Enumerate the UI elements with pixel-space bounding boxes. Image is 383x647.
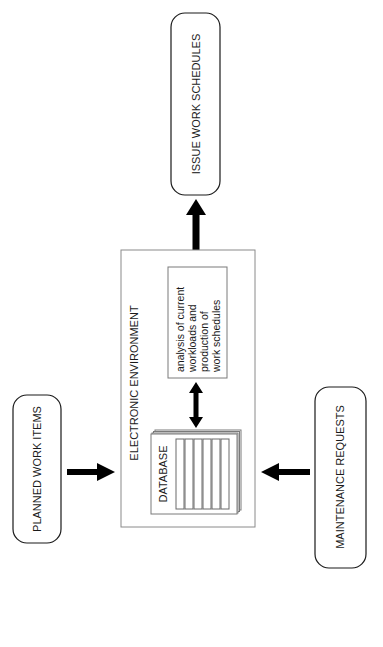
planned-input-arrow-icon [67,463,115,481]
electronic-environment-container: ELECTRONIC ENVIRONMENT analysis of curre… [121,250,255,527]
planned-work-items-node: PLANNED WORK ITEMS [13,395,61,543]
database-columns [176,439,229,509]
output-arrow-icon [186,199,206,250]
database-node: DATABASE [151,430,241,514]
issue-work-schedules-label: ISSUE WORK SCHEDULES [190,34,202,175]
analysis-line-3: production of [198,311,210,372]
analysis-process-node: analysis of current workloads and produc… [168,267,227,378]
workflow-diagram: ISSUE WORK SCHEDULES ELECTRONIC ENVIRONM… [0,0,383,647]
issue-work-schedules-node: ISSUE WORK SCHEDULES [171,13,220,195]
analysis-line-2: workloads and [186,304,198,373]
maintenance-requests-label: MAINTENANCE REQUESTS [334,405,346,549]
maintenance-requests-node: MAINTENANCE REQUESTS [315,387,366,568]
maintenance-input-arrow-icon [261,463,310,481]
analysis-line-1: analysis of current [174,287,186,372]
database-label: DATABASE [157,445,169,502]
analysis-line-4: work schedules [210,300,222,373]
planned-work-items-label: PLANNED WORK ITEMS [31,406,43,532]
electronic-environment-title: ELECTRONIC ENVIRONMENT [128,305,140,461]
